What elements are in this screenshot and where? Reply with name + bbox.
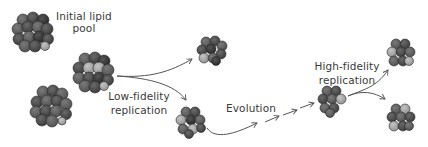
- label-initial-lipid-pool-line2: pool: [55, 22, 113, 34]
- lipid-assembly-low-fidelity-2: [176, 107, 206, 139]
- arrow-evolution-dash-1: [265, 116, 279, 122]
- lipid-assembly-evolved: [318, 86, 346, 118]
- lipid-assembly-low-fidelity-1: [197, 36, 227, 66]
- diagram-canvas: Initial lipid pool Low-fidelity replicat…: [0, 0, 428, 147]
- arrow-evolution-dash-2: [283, 110, 297, 115]
- arrow-low-fidelity-up: [117, 59, 192, 76]
- lipid-assembly-high-fidelity-2: [387, 104, 415, 131]
- label-low-fidelity-line1: Low-fidelity: [107, 90, 171, 102]
- label-low-fidelity-line2: replication: [107, 104, 171, 116]
- lipid-assembly-pool-2: [73, 52, 114, 93]
- label-high-fidelity-line1: High-fidelity: [314, 60, 380, 72]
- lipid-assembly-high-fidelity-1: [387, 39, 415, 66]
- label-initial-lipid-pool: Initial lipid pool: [55, 10, 113, 34]
- label-high-fidelity-line2: replication: [314, 74, 380, 86]
- label-low-fidelity-replication: Low-fidelity replication: [107, 90, 171, 116]
- lipid-assembly-pool-3: [30, 85, 72, 127]
- label-high-fidelity-replication: High-fidelity replication: [314, 60, 380, 86]
- label-evolution: Evolution: [226, 102, 276, 114]
- arrow-evolution-dash-3: [300, 103, 314, 108]
- label-evolution-text: Evolution: [226, 102, 276, 114]
- arrow-evolution-curve: [207, 123, 257, 135]
- lipid-assembly-pool-1: [12, 12, 54, 52]
- label-initial-lipid-pool-line1: Initial lipid: [55, 10, 113, 22]
